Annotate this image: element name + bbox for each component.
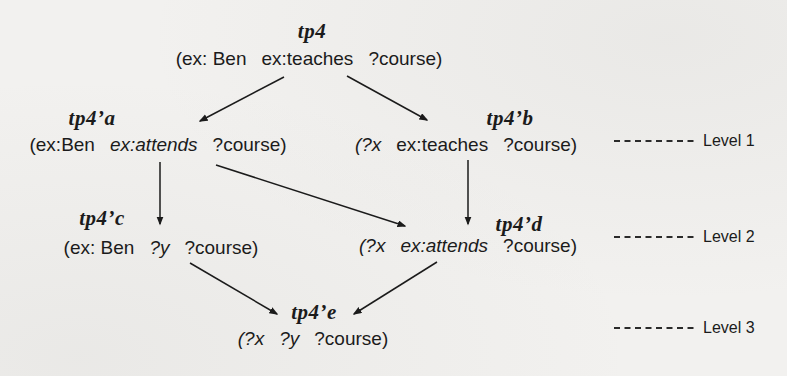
edge-tp4a-tp4d — [216, 165, 405, 226]
node-triple-tp4e: (?x ?y ?course) — [238, 328, 388, 350]
triple-object: ?course) — [314, 328, 388, 350]
triple-subject: (ex:Ben — [29, 134, 94, 156]
level-2-label: Level 2 — [703, 228, 755, 246]
edge-tp4-tp4b — [347, 76, 427, 120]
triple-object: ?course) — [184, 237, 258, 259]
triple-subject: (ex: Ben — [176, 48, 247, 70]
triple-predicate: ex:attends — [400, 235, 488, 257]
edge-tp4c-tp4e — [190, 263, 277, 314]
node-label-tp4c: tp4’c — [79, 206, 125, 231]
node-triple-tp4c: (ex: Ben ?y ?course) — [64, 237, 259, 259]
level-3-label: Level 3 — [703, 319, 755, 337]
triple-predicate: ex:teaches — [396, 134, 488, 156]
node-label-tp4: tp4 — [298, 19, 326, 44]
edge-tp4-tp4a — [200, 77, 284, 121]
edge-tp4d-tp4e — [354, 262, 437, 314]
triple-subject: (ex: Ben — [64, 237, 135, 259]
triple-subject: (?x — [359, 235, 385, 257]
triple-object: ?course) — [503, 235, 577, 257]
triple-object: ?course) — [368, 48, 442, 70]
triple-predicate: ex:attends — [110, 134, 198, 156]
triple-subject: (?x — [355, 134, 381, 156]
relaxation-graph-diagram: tp4 (ex: Ben ex:teaches ?course) tp4’a (… — [0, 0, 787, 376]
triple-subject: (?x — [238, 328, 264, 350]
triple-predicate: ?y — [149, 237, 169, 259]
node-triple-tp4b: (?x ex:teaches ?course) — [355, 134, 577, 156]
node-label-tp4e: tp4’e — [291, 300, 337, 325]
node-label-tp4d: tp4’d — [496, 212, 543, 237]
level-1-label: Level 1 — [703, 132, 755, 150]
node-triple-tp4a: (ex:Ben ex:attends ?course) — [29, 134, 286, 156]
node-triple-tp4d: (?x ex:attends ?course) — [359, 235, 577, 257]
node-label-tp4b: tp4’b — [487, 106, 534, 131]
triple-predicate: ex:teaches — [261, 48, 353, 70]
triple-object: ?course) — [503, 134, 577, 156]
node-label-tp4a: tp4’a — [69, 106, 116, 131]
triple-predicate: ?y — [279, 328, 299, 350]
triple-object: ?course) — [213, 134, 287, 156]
node-triple-tp4: (ex: Ben ex:teaches ?course) — [176, 48, 443, 70]
